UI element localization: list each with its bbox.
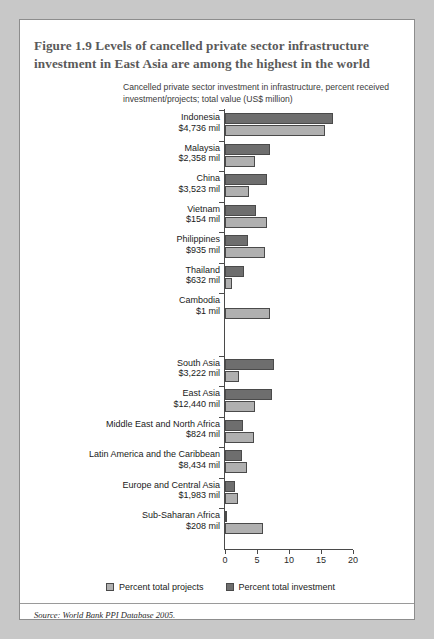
axis-group-tick: [219, 141, 224, 142]
axis-group-tick: [219, 202, 224, 203]
axis-group-tick: [219, 386, 224, 387]
category-label: Latin America and the Caribbean$8,434 mi…: [24, 449, 220, 470]
category-name: Cambodia: [24, 295, 220, 306]
category-total-value: $935 mil: [24, 245, 220, 256]
x-axis-tick: [257, 550, 258, 554]
category-name: Middle East and North Africa: [24, 419, 220, 430]
source-divider: [20, 603, 414, 604]
category-label: Indonesia$4,736 mil: [24, 112, 220, 133]
bar-projects: [225, 247, 265, 258]
category-name: Indonesia: [24, 112, 220, 123]
axis-group-tick: [219, 232, 224, 233]
category-name: Vietnam: [24, 204, 220, 215]
category-name: Malaysia: [24, 143, 220, 154]
category-name: Philippines: [24, 234, 220, 245]
category-label: Malaysia$2,358 mil: [24, 143, 220, 164]
bar-investment: [225, 235, 248, 246]
bar-investment: [225, 420, 243, 431]
axis-group-tick: [219, 417, 224, 418]
category-total-value: $1,983 mil: [24, 490, 220, 501]
category-label: Europe and Central Asia$1,983 mil: [24, 480, 220, 501]
bar-projects: [225, 523, 263, 534]
bar-investment: [225, 144, 270, 155]
category-name: Europe and Central Asia: [24, 480, 220, 491]
chart-plot-area: Indonesia$4,736 milMalaysia$2,358 milChi…: [20, 20, 416, 621]
bar-projects: [225, 462, 247, 473]
axis-group-tick: [219, 293, 224, 294]
bar-investment: [225, 481, 235, 492]
axis-group-tick: [219, 263, 224, 264]
bar-projects: [225, 432, 254, 443]
dark-gray-square-icon: [226, 583, 234, 591]
category-name: South Asia: [24, 358, 220, 369]
bar-investment: [225, 359, 274, 370]
bar-investment: [225, 266, 244, 277]
legend-label: Percent total projects: [119, 582, 204, 592]
chart-legend: Percent total projectsPercent total inve…: [106, 582, 335, 592]
axis-group-tick: [219, 447, 224, 448]
x-axis-tick: [289, 550, 290, 554]
bar-projects: [225, 493, 238, 504]
bar-projects: [225, 371, 239, 382]
category-label: Sub-Saharan Africa$208 mil: [24, 510, 220, 531]
category-total-value: $824 mil: [24, 429, 220, 440]
category-name: China: [24, 173, 220, 184]
bar-projects: [225, 401, 255, 412]
category-total-value: $4,736 mil: [24, 123, 220, 134]
x-axis-tick-label: 15: [309, 555, 333, 565]
axis-group-tick: [219, 171, 224, 172]
category-name: Sub-Saharan Africa: [24, 510, 220, 521]
bar-investment: [225, 174, 267, 185]
x-axis-tick-label: 5: [245, 555, 269, 565]
x-axis-tick: [321, 550, 322, 554]
axis-group-tick: [219, 478, 224, 479]
bar-projects: [225, 125, 325, 136]
category-label: South Asia$3,222 mil: [24, 358, 220, 379]
category-name: Thailand: [24, 265, 220, 276]
axis-group-tick: [219, 110, 224, 111]
axis-group-tick: [219, 356, 224, 357]
page-background: Figure 1.9 Levels of cancelled private s…: [0, 0, 434, 639]
category-label: Middle East and North Africa$824 mil: [24, 419, 220, 440]
x-axis-tick-label: 10: [277, 555, 301, 565]
bar-investment: [225, 113, 333, 124]
x-axis-tick-label: 0: [213, 555, 237, 565]
category-label: Vietnam$154 mil: [24, 204, 220, 225]
category-total-value: $632 mil: [24, 275, 220, 286]
bar-investment: [225, 450, 242, 461]
category-total-value: $12,440 mil: [24, 399, 220, 410]
category-label: East Asia$12,440 mil: [24, 388, 220, 409]
category-total-value: $2,358 mil: [24, 153, 220, 164]
bar-investment: [225, 389, 272, 400]
category-total-value: $3,222 mil: [24, 368, 220, 379]
category-total-value: $208 mil: [24, 521, 220, 532]
bar-investment: [225, 511, 227, 522]
x-axis-tick: [225, 550, 226, 554]
category-total-value: $3,523 mil: [24, 184, 220, 195]
category-label: Cambodia$1 mil: [24, 295, 220, 316]
bar-investment: [225, 205, 256, 216]
legend-label: Percent total investment: [239, 582, 336, 592]
bar-projects: [225, 278, 232, 289]
category-label: China$3,523 mil: [24, 173, 220, 194]
category-total-value: $8,434 mil: [24, 460, 220, 471]
legend-item: Percent total projects: [106, 582, 204, 592]
bar-projects: [225, 156, 255, 167]
legend-item: Percent total investment: [226, 582, 336, 592]
x-axis-tick-label: 20: [341, 555, 365, 565]
category-total-value: $1 mil: [24, 306, 220, 317]
category-name: Latin America and the Caribbean: [24, 449, 220, 460]
bar-projects: [225, 217, 267, 228]
axis-group-tick: [219, 508, 224, 509]
source-note: Source: World Bank PPI Database 2005.: [34, 610, 175, 620]
category-name: East Asia: [24, 388, 220, 399]
light-gray-square-icon: [106, 583, 114, 591]
bar-projects: [225, 308, 270, 319]
figure-card: Figure 1.9 Levels of cancelled private s…: [19, 19, 415, 620]
x-axis-tick: [353, 550, 354, 554]
category-total-value: $154 mil: [24, 214, 220, 225]
bar-projects: [225, 186, 249, 197]
category-label: Philippines$935 mil: [24, 234, 220, 255]
category-label: Thailand$632 mil: [24, 265, 220, 286]
